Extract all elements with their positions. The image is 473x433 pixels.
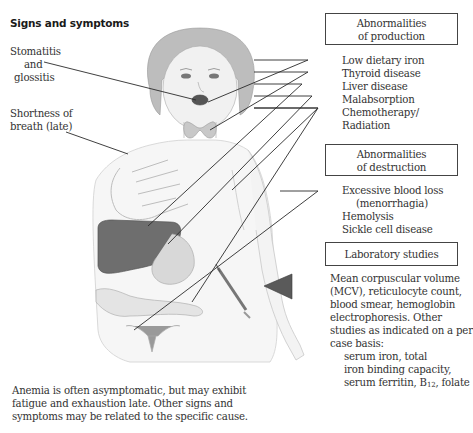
destruction-item: Hemolysis [342, 210, 443, 223]
production-header-box: Abnormalities of production [325, 13, 458, 45]
lab-header-box: Laboratory studies [325, 242, 458, 266]
footer-line: Anemia is often asymptomatic, but may ex… [12, 384, 248, 397]
destruction-item: (menorrhagia) [342, 197, 443, 210]
production-item: Liver disease [342, 80, 424, 93]
production-list: Low dietary iron Thyroid disease Liver d… [342, 54, 424, 132]
lab-line-last: serum ferritin, B12, folate [330, 376, 473, 389]
label-shortness-of-breath: Shortness of breath (late) [10, 107, 72, 133]
lab-line: Mean corpuscular volume [330, 272, 473, 285]
lab-line: (MCV), reticulocyte count, [330, 285, 473, 298]
diagram-title: Signs and symptoms [10, 17, 129, 29]
footer-line: symptoms may be related to the specific … [12, 410, 248, 423]
destruction-item: Excessive blood loss [342, 184, 443, 197]
production-item: Thyroid disease [342, 67, 424, 80]
production-item: Chemotherapy/ [342, 106, 424, 119]
footer-note: Anemia is often asymptomatic, but may ex… [12, 384, 248, 423]
destruction-list: Excessive blood loss (menorrhagia) Hemol… [342, 184, 443, 236]
lab-description: Mean corpuscular volume (MCV), reticuloc… [330, 272, 473, 389]
box-line: Abnormalities [326, 148, 457, 161]
destruction-header-box: Abnormalities of destruction [325, 144, 458, 176]
lab-text: , folate [435, 377, 469, 388]
label-line: Stomatitis [10, 45, 61, 58]
production-item: Malabsorption [342, 93, 424, 106]
lab-line: iron binding capacity, [330, 363, 473, 376]
lab-line: serum iron, total [330, 350, 473, 363]
lab-text: serum ferritin, B [344, 377, 427, 388]
label-line: glossitis [10, 71, 61, 84]
lab-line: case basis: [330, 337, 473, 350]
label-line: Shortness of [10, 107, 72, 120]
lab-line: studies as indicated on a per [330, 324, 473, 337]
label-line: and [10, 58, 61, 71]
label-stomatitis: Stomatitis and glossitis [10, 45, 61, 84]
lab-line: electrophoresis. Other [330, 311, 473, 324]
destruction-item: Sickle cell disease [342, 223, 443, 236]
box-line: of production [326, 30, 457, 43]
box-line: Abnormalities [326, 17, 457, 30]
footer-line: fatigue and exhaustion late. Other signs… [12, 397, 248, 410]
lab-line: blood smear, hemoglobin [330, 298, 473, 311]
label-line: breath (late) [10, 120, 72, 133]
production-item: Low dietary iron [342, 54, 424, 67]
box-line: of destruction [326, 161, 457, 174]
production-item: Radiation [342, 119, 424, 132]
